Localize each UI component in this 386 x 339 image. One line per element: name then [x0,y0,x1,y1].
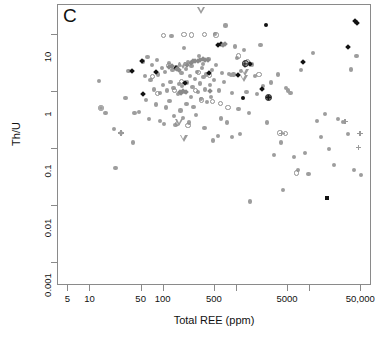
data-point [189,95,193,99]
x-tick-label: 50,000 [330,293,386,304]
data-point [150,74,155,79]
panel-label: C [63,6,77,25]
data-point [181,32,186,37]
data-point [202,126,206,130]
data-point [200,66,204,70]
data-point [279,140,283,144]
data-point [189,32,194,37]
x-tick [67,285,68,291]
data-point [155,58,159,62]
data-point [294,170,299,175]
plot-frame [57,4,371,285]
data-point [216,134,220,138]
data-point [129,68,135,74]
data-point [352,168,356,172]
x-tick [287,285,288,291]
data-point [155,91,160,96]
x-tick [141,285,142,291]
data-point [168,80,172,84]
data-point [223,23,227,27]
data-point [212,78,216,82]
data-point [137,110,141,114]
data-point [179,71,183,75]
data-point [336,117,340,121]
data-point [182,46,186,50]
data-point [211,138,215,142]
data-point [172,114,176,118]
data-point [258,43,262,47]
data-point [300,59,306,65]
data-point [191,105,195,109]
data-point [147,117,151,121]
data-point [165,88,169,92]
data-point [230,91,234,95]
x-tick [89,285,90,291]
data-point [359,173,363,177]
data-point [207,88,213,94]
y-axis-title: Th/U [10,104,22,164]
data-point [194,113,198,117]
x-tick [360,285,361,291]
data-point [154,102,158,106]
data-point [236,53,241,58]
data-point [299,68,303,72]
data-point [244,90,248,94]
data-point [259,87,265,93]
data-point [332,163,336,167]
data-point [303,151,307,155]
data-point [103,111,107,115]
y-tick-label: 0.1 [42,147,53,194]
data-point [225,120,229,124]
data-point [113,166,117,170]
data-point [112,127,116,131]
data-point [354,54,358,58]
data-point [247,111,251,115]
data-point [311,51,315,55]
data-point [188,74,192,78]
x-tick [309,285,310,291]
x-axis-title: Total REE (ppm) [57,314,371,326]
data-point [288,91,292,95]
y-tick-label: 1 [42,90,53,137]
data-point [349,67,353,71]
data-point [345,44,351,50]
data-point [199,97,204,102]
data-point [265,120,269,124]
data-point [98,105,103,110]
data-point [236,107,240,111]
data-point [265,94,272,101]
data-point [315,119,319,123]
figure-panel-c: C Th/U Total REE (ppm) 1010.10.010.00151… [0,0,386,339]
data-point [185,123,190,128]
data-point [354,20,360,26]
data-point [327,147,331,151]
data-point [164,105,168,109]
data-point [306,172,310,176]
data-point [184,102,188,106]
data-point [241,96,245,100]
data-point [193,77,197,81]
data-point [225,105,230,110]
data-point [220,71,224,75]
data-point [230,135,234,139]
data-point [144,98,148,102]
data-point [281,188,285,192]
data-point [161,33,166,38]
data-point [219,116,223,120]
data-point [196,70,201,75]
data-point [276,72,280,76]
data-point [161,83,165,87]
data-point [202,32,207,37]
data-point [346,132,350,136]
y-tick-label: 10 [42,33,53,80]
x-tick [163,285,164,291]
data-point [167,99,171,103]
data-point [131,140,135,144]
data-point [242,48,246,52]
data-point [342,119,348,125]
data-point [145,55,149,59]
data-point [292,155,296,159]
data-point [169,34,173,38]
data-point [123,96,127,100]
data-point [264,23,268,27]
